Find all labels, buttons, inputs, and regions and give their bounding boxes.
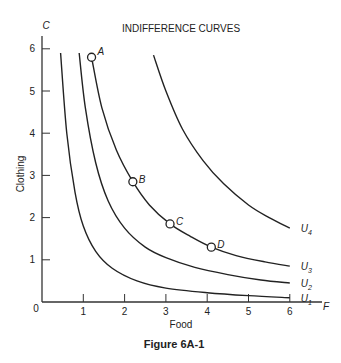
curve-label-subscript: 2: [307, 284, 312, 291]
curve-label-u2: U2: [301, 278, 312, 291]
x-axis-label: Food: [170, 319, 193, 330]
figure-caption: Figure 6A-1: [144, 338, 205, 350]
indifference-curves-chart: 123456123456 U1U2U3U4 ABCD INDIFFERENCE …: [0, 0, 341, 363]
curve-label-subscript: 3: [308, 267, 312, 274]
y-tick-label: 4: [29, 128, 35, 139]
origin-label: 0: [33, 303, 39, 314]
point-marker-c: [166, 220, 174, 228]
curve-label-u4: U4: [301, 223, 312, 236]
x-tick-label: 3: [163, 306, 169, 317]
y-tick-label: 2: [29, 212, 35, 223]
marked-points: ABCD: [88, 46, 225, 251]
curve-label-subscript: 1: [308, 299, 312, 306]
curves: U1U2U3U4: [61, 53, 312, 306]
x-tick-label: 6: [287, 306, 293, 317]
y-tick-label: 6: [29, 43, 35, 54]
y-axis-symbol: C: [42, 20, 50, 31]
x-tick-label: 2: [122, 306, 128, 317]
indifference-curve-u3: [92, 57, 290, 266]
point-label-c: C: [176, 216, 184, 227]
chart-title: INDIFFERENCE CURVES: [122, 23, 240, 34]
y-tick-label: 3: [29, 170, 35, 181]
curve-label-u1: U1: [301, 293, 312, 306]
curve-label-subscript: 4: [308, 229, 312, 236]
curve-label-u3: U3: [301, 261, 312, 274]
x-tick-label: 1: [81, 306, 87, 317]
point-marker-d: [207, 243, 215, 251]
indifference-curve-u4: [154, 55, 290, 228]
axes: 123456123456: [29, 36, 322, 317]
y-tick-label: 1: [29, 254, 35, 265]
point-marker-b: [129, 178, 137, 186]
x-axis-symbol: F: [323, 301, 330, 312]
y-tick-label: 5: [29, 86, 35, 97]
point-marker-a: [88, 53, 96, 61]
indifference-curve-u2: [79, 53, 290, 283]
y-axis-label: Clothing: [15, 156, 26, 193]
point-label-b: B: [139, 174, 146, 185]
x-tick-label: 4: [204, 306, 210, 317]
point-label-d: D: [217, 239, 224, 250]
x-tick-label: 5: [246, 306, 252, 317]
point-label-a: A: [97, 46, 105, 57]
